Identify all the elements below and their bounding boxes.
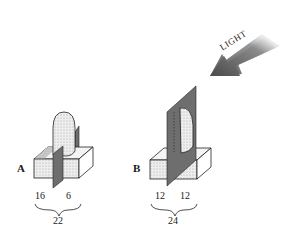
panel-b-label: B	[133, 163, 140, 173]
panel-b-coleoptile-tip	[180, 108, 193, 153]
panel-a-label: A	[17, 163, 25, 173]
panel-a-apparatus	[34, 112, 93, 188]
panel-b-total: 24	[168, 216, 178, 226]
panel-b-left-value: 12	[155, 191, 165, 201]
panel-a-left-value: 16	[35, 191, 45, 201]
panel-b-apparatus	[150, 86, 211, 186]
panel-a-coleoptile-tip	[53, 112, 75, 156]
panel-a-right-value: 6	[66, 191, 71, 201]
panel-a-total: 22	[53, 216, 63, 226]
panel-b-right-value: 12	[180, 191, 190, 201]
light-arrow-icon	[210, 34, 280, 76]
